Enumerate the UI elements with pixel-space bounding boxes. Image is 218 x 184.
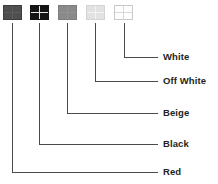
- callout-label-white: White: [163, 52, 189, 62]
- swatch-beige: [58, 5, 77, 20]
- leader-horizontal-segment: [95, 81, 158, 82]
- swatch-grid-horizontal: [87, 12, 104, 13]
- swatch-grid-horizontal: [59, 12, 76, 13]
- swatch-off-white: [86, 5, 105, 20]
- leader-vertical-segment: [12, 23, 13, 173]
- swatch-grid-horizontal: [31, 12, 48, 13]
- swatch-grid-horizontal: [115, 12, 132, 13]
- leader-horizontal-segment: [67, 113, 158, 114]
- callout-label-beige: Beige: [163, 108, 189, 118]
- swatch-black: [30, 5, 49, 20]
- callout-label-off-white: Off White: [163, 76, 206, 86]
- leader-horizontal-segment: [12, 172, 158, 173]
- color-swatch-callout-diagram: White Off White Beige Black Red: [0, 0, 218, 184]
- leader-horizontal-segment: [124, 57, 158, 58]
- callout-label-black: Black: [163, 139, 189, 149]
- swatch-grid-horizontal: [4, 12, 21, 13]
- leader-vertical-segment: [39, 23, 40, 145]
- leader-vertical-segment: [95, 23, 96, 82]
- leader-horizontal-segment: [39, 144, 158, 145]
- swatch-red: [3, 5, 22, 20]
- leader-vertical-segment: [124, 23, 125, 58]
- leader-vertical-segment: [67, 23, 68, 114]
- swatch-white: [114, 5, 133, 20]
- callout-label-red: Red: [163, 167, 181, 177]
